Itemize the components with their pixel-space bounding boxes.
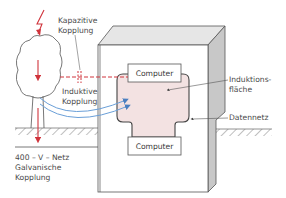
ground-right: [216, 129, 272, 136]
label-inductive-1: Induktive: [62, 87, 98, 96]
computer-top-label: Computer: [136, 69, 175, 78]
lightning-icon: [36, 10, 44, 36]
label-inductive-2: Kopplung: [62, 97, 98, 106]
label-induction-area-1: Induktions-: [229, 75, 272, 84]
label-400v-net: 400 – V – Netz: [15, 153, 69, 162]
label-capacitive-1: Kapazitive: [58, 16, 98, 25]
coupling-diagram: Computer Computer Kapazitive Kopplung In…: [0, 0, 286, 198]
computer-bottom: Computer: [128, 137, 181, 155]
ground-left: [15, 128, 99, 135]
label-capacitive-2: Kopplung: [58, 26, 94, 35]
label-galvanic-2: Kopplung: [15, 173, 51, 182]
computer-bottom-label: Computer: [136, 142, 175, 151]
label-data-network: Datennetz: [229, 113, 268, 122]
label-induction-area-2: fläche: [229, 85, 252, 94]
building-side: [208, 26, 225, 192]
building-top: [98, 26, 225, 45]
tree-icon: [16, 35, 62, 128]
computer-top: Computer: [128, 64, 181, 82]
label-galvanic-1: Galvanische: [15, 163, 62, 172]
